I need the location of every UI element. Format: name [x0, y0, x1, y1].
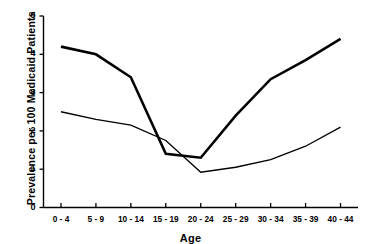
y-tick-label: 5 — [22, 11, 36, 20]
x-tick-label: 40 - 44 — [318, 215, 364, 223]
y-tick-label: 0 — [22, 203, 36, 212]
y-tick-label: 1 — [22, 164, 36, 173]
y-tick-label: 4 — [22, 49, 36, 58]
x-axis-title: Age — [0, 233, 381, 244]
series-line-thin-line — [61, 112, 341, 173]
series-line-thick-line — [61, 39, 341, 158]
y-tick-label: 3 — [22, 88, 36, 97]
y-tick-label: 2 — [22, 126, 36, 135]
